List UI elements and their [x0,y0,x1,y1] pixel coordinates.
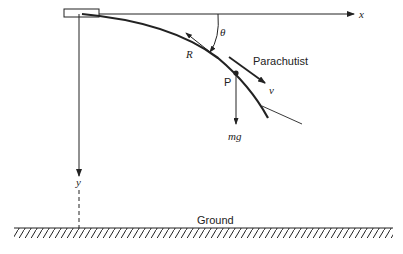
velocity-label: v [269,84,274,96]
ground-hatching [14,228,393,238]
parachutist-diagram: x y θ R v Parachutist P mg Ground [0,0,403,254]
parachutist-label: Parachutist [253,55,308,67]
drag-force-label: R [185,48,193,60]
ground-label: Ground [197,214,234,226]
angle-label: θ [220,26,226,38]
weight-force-label: mg [228,130,242,142]
trajectory-tail [262,106,302,124]
angle-arc [210,14,218,52]
x-axis-label: x [358,8,364,20]
point-p-label: P [224,76,231,88]
y-axis-label: y [75,176,81,188]
